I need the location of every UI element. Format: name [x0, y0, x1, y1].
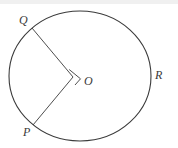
right-angle-marker-icon: [69, 70, 80, 86]
radius-oq-line: [32, 28, 73, 77]
center-label-o: O: [84, 75, 93, 87]
point-label-r: R: [155, 69, 162, 81]
point-label-p: P: [23, 126, 30, 138]
circle-outline: [9, 11, 151, 141]
point-label-q: Q: [19, 14, 28, 26]
radius-op-line: [33, 77, 73, 125]
geometry-figure: Q P R O: [0, 0, 178, 148]
